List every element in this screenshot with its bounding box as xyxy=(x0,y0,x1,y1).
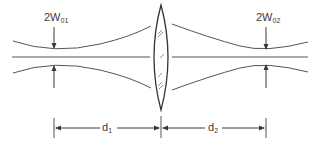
waist-left-label: 2W01 xyxy=(44,11,68,24)
distance-d1-label: d1 xyxy=(102,121,112,134)
waist-right-label: 2W02 xyxy=(256,11,280,24)
distance-d2-label: d2 xyxy=(208,121,218,134)
beam-diagram: 2W01 2W02 d1 d2 xyxy=(0,0,321,150)
lens xyxy=(154,5,168,110)
extension-lines xyxy=(54,116,266,138)
